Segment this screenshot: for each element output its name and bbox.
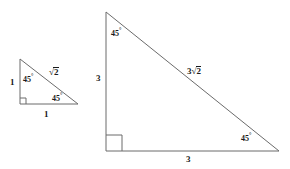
- large-triangle-base-label: 3: [186, 155, 191, 164]
- large-triangle-left-leg-label: 3: [96, 74, 101, 83]
- degree-symbol-icon: °: [31, 73, 33, 79]
- small-triangle-left-leg-label: 1: [10, 78, 15, 87]
- large-triangle-right-angle-label: 45°: [241, 132, 251, 143]
- large-top-angle-value: 45: [111, 29, 119, 38]
- small-triangle-right-angle-marker: [20, 98, 26, 104]
- small-triangle-base-label: 1: [44, 110, 49, 119]
- small-triangle-top-angle-label: 45°: [23, 73, 33, 84]
- small-triangle-hypotenuse-label: √2: [49, 67, 59, 77]
- large-right-angle-value: 45: [241, 134, 249, 143]
- small-radicand: 2: [53, 67, 59, 77]
- degree-symbol-icon: °: [249, 132, 251, 138]
- small-right-angle-value: 45: [52, 94, 60, 103]
- small-top-angle-value: 45: [23, 75, 31, 84]
- triangles-figure: [0, 0, 290, 169]
- degree-symbol-icon: °: [119, 27, 121, 33]
- large-triangle-outline: [106, 12, 279, 151]
- large-triangle-right-angle-marker: [106, 135, 122, 151]
- degree-symbol-icon: °: [60, 92, 62, 98]
- small-triangle-right-angle-label: 45°: [52, 92, 62, 103]
- small-radical-expression: √2: [49, 67, 59, 77]
- large-triangle-top-angle-label: 45°: [111, 27, 121, 38]
- large-radicand: 2: [196, 66, 202, 76]
- large-triangle-hypotenuse-label: 3√2: [187, 66, 201, 76]
- large-radical-expression: 3√2: [187, 66, 201, 76]
- geometry-diagram: 1 1 √2 45° 45° 3 3 3√2 45° 45°: [0, 0, 290, 169]
